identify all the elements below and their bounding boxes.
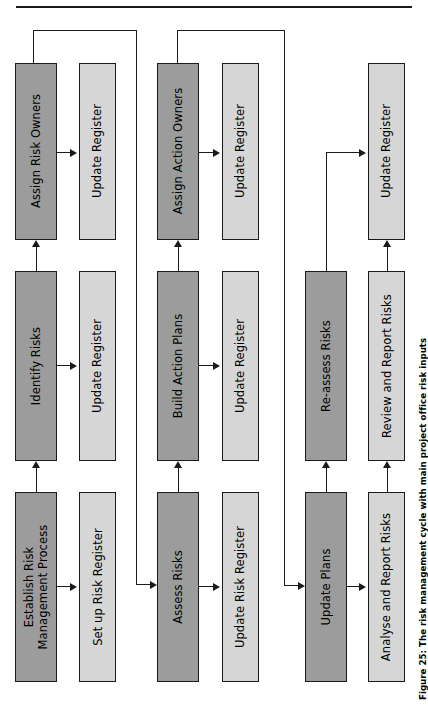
arrowhead-re-assess-to-update-register bbox=[359, 149, 366, 157]
arrowhead-establish-to-identify bbox=[32, 461, 40, 468]
node-label: Re-assess Risks bbox=[319, 320, 333, 412]
node-establish-risk-management-process[interactable]: Establish Risk Management Process bbox=[15, 492, 57, 682]
node-label: Establish Risk Management Process bbox=[22, 525, 50, 650]
node-identify-risks[interactable]: Identify Risks bbox=[15, 271, 57, 461]
feedback-loop-2-arrowhead bbox=[298, 582, 305, 590]
feedback-loop-2-drop bbox=[284, 30, 285, 586]
arrowhead-build-action-plans-to-update-register bbox=[213, 362, 220, 370]
feedback-loop-1-top bbox=[33, 30, 137, 31]
node-label: Assign Action Owners bbox=[171, 88, 185, 215]
connector-review-to-update-register bbox=[387, 247, 388, 271]
node-label: Update Register bbox=[233, 104, 247, 198]
node-update-risk-register-stage4[interactable]: Update Risk Register bbox=[222, 492, 259, 682]
arrowhead-review-to-update-register bbox=[383, 240, 391, 247]
node-label: Assign Risk Owners bbox=[29, 94, 43, 208]
connector-re-assess-to-update-register-run bbox=[326, 152, 362, 153]
node-label: Update Register bbox=[90, 319, 104, 413]
node-analyse-and-report-risks[interactable]: Analyse and Report Risks bbox=[368, 492, 405, 682]
arrowhead-assess-to-build-action-plans bbox=[174, 461, 182, 468]
figure-caption: Figure 25: The risk management cycle wit… bbox=[418, 338, 428, 700]
feedback-loop-1-riser bbox=[33, 30, 34, 64]
arrowhead-update-plans-to-re-assess bbox=[322, 461, 330, 468]
node-label: Update Register bbox=[233, 319, 247, 413]
connector-establish-to-identify bbox=[36, 468, 37, 492]
node-update-register-stage9[interactable]: Update Register bbox=[368, 63, 405, 240]
node-assign-action-owners[interactable]: Assign Action Owners bbox=[157, 63, 199, 240]
arrowhead-assign-risk-owners-to-update-register bbox=[70, 149, 77, 157]
feedback-loop-2-riser bbox=[177, 30, 178, 64]
feedback-loop-1-drop bbox=[136, 30, 137, 585]
node-update-register-stage5[interactable]: Update Register bbox=[222, 271, 259, 461]
arrowhead-assign-action-owners-to-update-register bbox=[213, 149, 220, 157]
top-horizontal-rule bbox=[16, 6, 412, 8]
node-label: Update Risk Register bbox=[233, 526, 247, 648]
node-update-register-stage2[interactable]: Update Register bbox=[79, 271, 116, 461]
feedback-loop-1-arrowhead bbox=[150, 581, 157, 589]
node-assess-risks[interactable]: Assess Risks bbox=[157, 492, 199, 682]
node-review-and-report-risks[interactable]: Review and Report Risks bbox=[368, 271, 405, 461]
connector-update-plans-to-re-assess bbox=[326, 468, 327, 492]
connector-identify-to-assign-risk-owners bbox=[36, 247, 37, 271]
arrowhead-establish-to-setup-register bbox=[70, 583, 77, 591]
node-update-register-stage6[interactable]: Update Register bbox=[222, 63, 259, 240]
node-label: Analyse and Report Risks bbox=[380, 513, 394, 661]
feedback-loop-2-top bbox=[177, 30, 284, 31]
node-label: Update Plans bbox=[319, 549, 333, 626]
arrowhead-update-plans-to-analyse bbox=[359, 583, 366, 591]
node-update-plans[interactable]: Update Plans bbox=[305, 492, 347, 682]
connector-re-assess-to-update-register-riser bbox=[326, 152, 327, 271]
arrowhead-assess-to-update-risk-register bbox=[213, 583, 220, 591]
connector-assess-to-build-action-plans bbox=[178, 468, 179, 492]
arrowhead-analyse-to-review-and-report bbox=[383, 461, 391, 468]
node-label: Update Register bbox=[90, 104, 104, 198]
node-assign-risk-owners[interactable]: Assign Risk Owners bbox=[15, 63, 57, 240]
connector-build-to-assign-action-owners bbox=[178, 247, 179, 271]
node-label: Update Register bbox=[379, 104, 393, 198]
arrowhead-identify-to-update-register bbox=[70, 362, 77, 370]
node-build-action-plans[interactable]: Build Action Plans bbox=[157, 271, 199, 461]
node-re-assess-risks[interactable]: Re-assess Risks bbox=[305, 271, 347, 461]
arrowhead-identify-to-assign-risk-owners bbox=[32, 240, 40, 247]
connector-analyse-to-review-and-report bbox=[387, 468, 388, 492]
node-set-up-risk-register[interactable]: Set up Risk Register bbox=[79, 492, 116, 682]
node-update-register-stage3[interactable]: Update Register bbox=[79, 63, 116, 240]
arrowhead-build-to-assign-action-owners bbox=[174, 240, 182, 247]
node-label: Build Action Plans bbox=[171, 314, 185, 418]
node-label: Review and Report Risks bbox=[380, 294, 394, 438]
node-label: Set up Risk Register bbox=[90, 528, 104, 646]
node-label: Assess Risks bbox=[171, 550, 185, 624]
node-label: Identify Risks bbox=[29, 327, 43, 405]
